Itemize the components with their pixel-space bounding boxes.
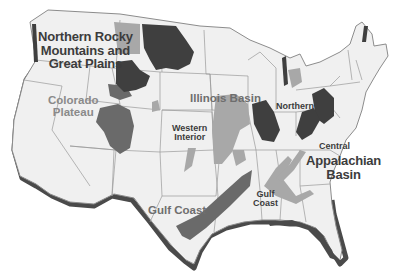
- label-gulf-coast-west: Gulf Coast: [148, 204, 206, 216]
- label-line: Colorado: [48, 94, 98, 106]
- label-line: Interior: [172, 133, 207, 142]
- label-line: Mountains and: [38, 44, 133, 58]
- label-central-appalachian: Central: [319, 142, 350, 151]
- label-line: Coast: [253, 199, 278, 208]
- label-northern-rocky-mountains-great-plains: Northern Rocky Mountains and Great Plain…: [38, 30, 133, 71]
- label-line: Basin: [306, 168, 381, 182]
- label-appalachian-basin: Appalachian Basin: [306, 154, 381, 181]
- label-western-interior: Western Interior: [172, 124, 207, 143]
- label-colorado-plateau: Colorado Plateau: [48, 94, 98, 118]
- label-northern-appalachian: Northern: [276, 102, 314, 111]
- label-line: Great Plains: [38, 57, 133, 71]
- label-line: Northern Rocky: [38, 30, 133, 44]
- label-illinois-basin: Illinois Basin: [190, 92, 261, 104]
- label-line: Plateau: [48, 106, 98, 118]
- label-line: Appalachian: [306, 154, 381, 168]
- label-gulf-coast-east: Gulf Coast: [253, 190, 278, 209]
